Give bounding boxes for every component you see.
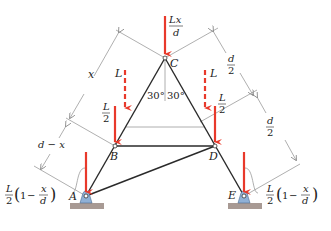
svg-text:2: 2 [228, 65, 234, 76]
svg-text:d: d [173, 27, 179, 38]
svg-text:L: L [266, 183, 274, 194]
svg-text:d: d [267, 115, 273, 126]
node-label-B: B [109, 150, 118, 163]
joint-D [213, 144, 217, 148]
joint-B [113, 144, 117, 148]
svg-text:d: d [40, 195, 46, 206]
node-label-D: D [208, 150, 218, 163]
joint-A [84, 194, 88, 198]
angle-right: 30° [167, 90, 185, 101]
ground-E [228, 203, 262, 209]
dim-x-label: x [88, 68, 95, 81]
svg-text:1: 1 [282, 190, 288, 201]
svg-text:L: L [5, 183, 13, 194]
ground-A [70, 203, 104, 209]
moving-load-left-label: L [114, 67, 122, 80]
truss-diagram: C B D A E 30° 30° Lx d L 2 L 2 L L x d −… [0, 0, 331, 231]
load-D-label: L 2 [218, 92, 226, 115]
node-label-E: E [227, 189, 236, 202]
svg-text:2: 2 [219, 104, 225, 115]
svg-text:Lx: Lx [168, 14, 182, 25]
load-C-label: Lx d [168, 14, 183, 38]
reaction-A-label: L 2 ( 1 − x d ) [5, 183, 56, 206]
svg-text:2: 2 [6, 195, 12, 206]
reaction-E-label: L 2 ( 1 − x d ) [266, 183, 318, 206]
angle-left: 30° [147, 90, 165, 101]
svg-text:d: d [302, 195, 308, 206]
node-label-A: A [68, 190, 77, 203]
svg-text:2: 2 [103, 113, 109, 124]
svg-text:2: 2 [267, 127, 273, 138]
dimension-lines [34, 28, 300, 196]
svg-text:2: 2 [267, 195, 273, 206]
svg-text:−: − [27, 190, 35, 201]
svg-text:): ) [50, 185, 56, 204]
moving-load-right-label: L [209, 67, 217, 80]
svg-text:x: x [303, 183, 309, 194]
load-B-label: L 2 [102, 101, 110, 124]
dim-d-minus-x-label: d − x [38, 139, 65, 150]
svg-text:−: − [289, 190, 297, 201]
node-label-C: C [170, 57, 179, 70]
svg-text:d: d [228, 53, 234, 64]
svg-text:x: x [41, 183, 47, 194]
svg-text:): ) [312, 185, 318, 204]
dim-right-lower-label: d 2 [266, 115, 274, 138]
svg-text:L: L [102, 101, 110, 112]
svg-text:1: 1 [20, 190, 26, 201]
joint-E [242, 194, 246, 198]
svg-text:L: L [218, 92, 226, 103]
dim-right-upper-label: d 2 [227, 53, 235, 76]
joint-C [163, 56, 167, 60]
